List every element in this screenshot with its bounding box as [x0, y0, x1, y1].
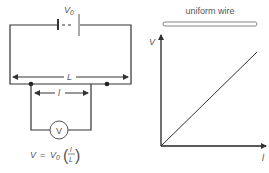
voltmeter-label: V [56, 126, 62, 136]
contact-point-right [105, 82, 110, 87]
x-axis-label: l [262, 153, 265, 163]
circuit: V0 L V l V = V0 ( l L ) [10, 5, 131, 164]
voltmeter-wire-right [68, 84, 91, 130]
length-label: L [67, 72, 72, 82]
linear-line [161, 52, 257, 146]
svg-text:V0: V0 [50, 150, 60, 161]
uniform-wire-label: uniform wire [185, 6, 234, 16]
battery-label: V0 [64, 5, 74, 16]
battery-icon [58, 14, 79, 36]
segment-label: l [58, 88, 61, 98]
voltmeter-wire-left [31, 84, 50, 130]
svg-text:L: L [69, 156, 73, 163]
svg-text:l: l [70, 146, 72, 153]
formula: V = V0 ( l L ) [30, 146, 80, 164]
graph: V l [149, 35, 266, 163]
svg-text:V: V [30, 150, 37, 160]
uniform-wire: uniform wire [163, 6, 257, 26]
wire-icon [163, 22, 257, 26]
svg-text:=: = [40, 150, 45, 160]
y-axis-label: V [149, 37, 156, 47]
potentiometer-diagram: V0 L V l V = V0 ( l L ) uniform wire [0, 0, 269, 173]
paren-right: ) [75, 147, 80, 164]
